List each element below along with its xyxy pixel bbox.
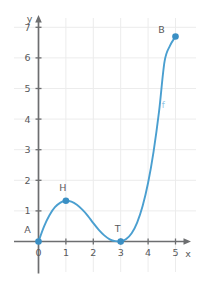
axis-ticks bbox=[36, 27, 176, 244]
y-axis-name: y bbox=[27, 13, 33, 24]
point-label-h: H bbox=[59, 182, 66, 193]
point-label-b: B bbox=[158, 24, 165, 35]
curve-name-label: f bbox=[162, 100, 166, 110]
x-tick-label: 3 bbox=[118, 247, 124, 258]
y-tick-label: 3 bbox=[24, 144, 30, 155]
point-label-a: A bbox=[24, 224, 31, 235]
y-tick-label: 2 bbox=[24, 175, 30, 186]
data-point-h[interactable] bbox=[63, 198, 70, 205]
x-axis-tick-labels: 012345 bbox=[35, 247, 178, 258]
function-graph-figure: 012345 1234567 f AHTB yx bbox=[0, 0, 203, 288]
y-tick-label: 1 bbox=[24, 205, 30, 216]
axis-name-labels: yx bbox=[27, 13, 192, 259]
y-axis-tick-labels: 1234567 bbox=[24, 22, 30, 217]
x-axis-name: x bbox=[185, 248, 191, 259]
x-tick-label: 1 bbox=[63, 247, 69, 258]
y-axis-arrow bbox=[35, 15, 42, 23]
x-tick-label: 4 bbox=[145, 247, 151, 258]
x-tick-label: 0 bbox=[35, 247, 41, 258]
point-label-t: T bbox=[114, 223, 121, 234]
data-point-t[interactable] bbox=[117, 238, 124, 245]
plot-canvas: 012345 1234567 f AHTB yx bbox=[0, 0, 203, 288]
data-point-b[interactable] bbox=[172, 33, 179, 40]
y-tick-label: 6 bbox=[24, 52, 30, 63]
y-tick-label: 4 bbox=[24, 114, 30, 125]
data-point-a[interactable] bbox=[35, 238, 42, 245]
x-tick-label: 2 bbox=[90, 247, 96, 258]
x-tick-label: 5 bbox=[172, 247, 178, 258]
y-tick-label: 5 bbox=[24, 83, 30, 94]
x-axis-arrow bbox=[184, 238, 192, 245]
